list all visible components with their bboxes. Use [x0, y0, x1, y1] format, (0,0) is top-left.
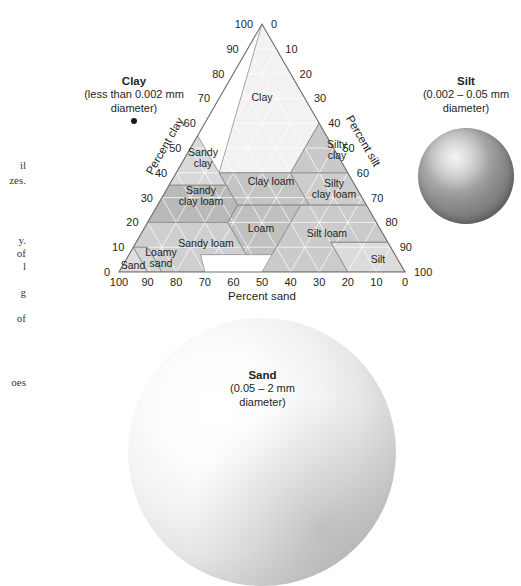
bottom-axis-tick-label: 80 — [170, 276, 182, 288]
texture-class-label: Silty — [327, 138, 348, 150]
texture-class-label: Loam — [248, 222, 275, 234]
left-axis-tick-label: 80 — [212, 68, 224, 80]
texture-class-label: Silty — [324, 177, 345, 189]
bottom-axis-tick-label: 60 — [227, 276, 239, 288]
right-axis-tick-label: 80 — [385, 216, 397, 228]
left-axis-tick-label: 20 — [126, 216, 138, 228]
right-axis-tick-label: 30 — [314, 92, 326, 104]
right-axis-tick-label: 70 — [371, 192, 383, 204]
texture-class-label: Loamy — [145, 246, 177, 258]
texture-class-label: Clay loam — [248, 175, 295, 187]
texture-class-label: clay — [194, 157, 213, 169]
texture-class-label: Clay — [251, 91, 273, 103]
left-axis-tick-label: 60 — [184, 117, 196, 129]
texture-class-label: sand — [150, 257, 173, 269]
texture-class-label: clay — [328, 149, 347, 161]
texture-class-label: Sand — [121, 259, 146, 271]
right-axis-tick-label: 60 — [357, 167, 369, 179]
left-axis-tick-label: 70 — [198, 92, 210, 104]
left-axis-tick-label: 30 — [141, 192, 153, 204]
right-axis-tick-label: 10 — [285, 43, 297, 55]
bottom-axis-tick-label: 0 — [402, 276, 408, 288]
bottom-axis-tick-label: 50 — [256, 276, 268, 288]
right-axis-tick-label: 0 — [271, 18, 277, 30]
bottom-axis-tick-label: 40 — [284, 276, 296, 288]
right-axis-tick-label: 20 — [300, 68, 312, 80]
right-axis-tick-label: 100 — [414, 266, 432, 278]
texture-class-label: clay loam — [312, 188, 357, 200]
left-axis-tick-label: 90 — [226, 43, 238, 55]
bottom-axis-title: Percent sand — [228, 290, 296, 302]
bottom-axis-ticks: 1009080706050403020100 — [110, 276, 408, 288]
texture-class-label: Silt loam — [307, 227, 348, 239]
texture-class-label: Silt — [371, 253, 386, 265]
texture-class-label: clay loam — [179, 195, 224, 207]
bottom-axis-tick-label: 20 — [342, 276, 354, 288]
bottom-axis-tick-label: 70 — [199, 276, 211, 288]
texture-class-label: Sandy — [186, 184, 217, 196]
bottom-axis-tick-label: 100 — [110, 276, 128, 288]
texture-class-label: Sandy — [188, 146, 219, 158]
left-axis-tick-label: 100 — [235, 18, 253, 30]
bottom-axis-tick-label: 90 — [141, 276, 153, 288]
right-axis-tick-label: 40 — [328, 117, 340, 129]
bottom-axis-tick-label: 10 — [370, 276, 382, 288]
right-axis-tick-label: 90 — [400, 241, 412, 253]
texture-class-label: Sandy loam — [178, 237, 234, 249]
left-axis-tick-label: 10 — [112, 241, 124, 253]
bottom-axis-tick-label: 30 — [313, 276, 325, 288]
